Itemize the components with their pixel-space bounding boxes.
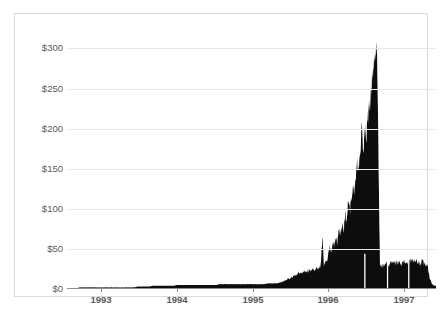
y-tick-label-50: $50 — [19, 244, 63, 254]
chart-title — [0, 0, 440, 5]
gridline-150 — [67, 169, 436, 170]
y-tick-label-250: $250 — [19, 84, 63, 94]
y-axis-labels: $0$50$100$150$200$250$300 — [15, 14, 63, 298]
x-tick-mark-1997 — [404, 288, 405, 292]
y-tick-label-200: $200 — [19, 124, 63, 134]
x-tick-label-1997: 1997 — [379, 294, 429, 305]
x-tick-mark-1995 — [253, 288, 254, 292]
series-gap-2 — [387, 254, 388, 289]
y-tick-label-100: $100 — [19, 204, 63, 214]
x-tick-mark-1993 — [101, 288, 102, 292]
y-tick-label-300: $300 — [19, 43, 63, 53]
y-tick-label-150: $150 — [19, 164, 63, 174]
plot-frame: $0$50$100$150$200$250$300 19931994199519… — [14, 13, 428, 297]
x-tick-label-1995: 1995 — [228, 294, 278, 305]
series-gap-3 — [408, 254, 409, 289]
plot-area — [67, 34, 436, 289]
series-gap-1 — [364, 254, 365, 289]
x-tick-mark-1996 — [328, 288, 329, 292]
x-tick-label-1993: 1993 — [76, 294, 126, 305]
x-axis-line — [67, 288, 436, 289]
x-tick-label-1994: 1994 — [152, 294, 202, 305]
y-tick-label-0: $0 — [19, 284, 63, 294]
gridline-200 — [67, 129, 436, 130]
price-series-area — [67, 34, 436, 289]
gridline-250 — [67, 89, 436, 90]
gridline-300 — [67, 48, 436, 49]
gridline-100 — [67, 209, 436, 210]
x-tick-label-1996: 1996 — [303, 294, 353, 305]
x-tick-mark-1994 — [177, 288, 178, 292]
chart-container: $0$50$100$150$200$250$300 19931994199519… — [0, 0, 440, 311]
gridline-50 — [67, 249, 436, 250]
